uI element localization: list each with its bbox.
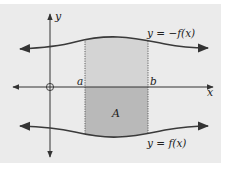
x-axis-label: x <box>207 86 214 99</box>
region-A-label: A <box>111 107 120 120</box>
bound-b-label: b <box>150 75 157 87</box>
lower-curve-label: y = f(x) <box>146 137 186 149</box>
upper-shaded-region <box>85 37 148 87</box>
y-axis-label: y <box>54 10 62 23</box>
upper-curve-label: y = −f(x) <box>146 27 195 39</box>
bound-a-label: a <box>77 75 83 87</box>
area-diagram: y x a b A y = −f(x) y = f(x) <box>0 0 231 172</box>
